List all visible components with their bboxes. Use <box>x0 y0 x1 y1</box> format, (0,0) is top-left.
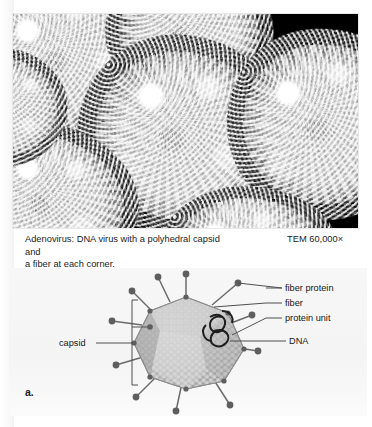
leader-fiber <box>214 303 266 307</box>
fiber-base <box>147 308 152 313</box>
label-protein-unit: protein unit <box>285 313 330 323</box>
leader-fiber-protein <box>238 283 282 288</box>
label-fiber-protein: fiber protein <box>285 283 334 293</box>
caption-line-1: Adenovirus: DNA virus with a polyhedral … <box>25 233 230 258</box>
fiber-knob <box>129 288 136 295</box>
fiber-knob <box>133 394 140 401</box>
fiber <box>212 283 238 305</box>
figure-panel: Adenovirus: DNA virus with a polyhedral … <box>0 0 372 427</box>
label-capsid: capsid <box>59 338 86 348</box>
fiber-base <box>183 294 188 299</box>
fiber-base <box>221 378 226 383</box>
label-dna: DNA <box>289 336 308 346</box>
fiber-knob <box>249 312 256 319</box>
fiber-knob <box>173 408 180 415</box>
fiber-knob <box>227 402 234 409</box>
fiber-knob <box>183 271 190 278</box>
fiber <box>112 321 142 325</box>
capsid-anchor-dot <box>147 324 153 330</box>
fiber-knob <box>255 348 262 355</box>
tem-micrograph-image <box>13 14 358 228</box>
fiber-knob <box>109 318 116 325</box>
label-fiber: fiber <box>285 298 303 308</box>
fiber <box>158 277 170 302</box>
fiber <box>116 357 143 365</box>
magnification-note: TEM 60,000× <box>287 234 343 244</box>
fiber-base <box>147 374 152 379</box>
panel-letter: a. <box>25 386 34 398</box>
fiber-knob <box>113 362 120 369</box>
fiber <box>136 377 156 397</box>
fiber-knob <box>155 274 162 281</box>
fiber-base <box>241 346 246 351</box>
fiber-base <box>183 386 188 391</box>
